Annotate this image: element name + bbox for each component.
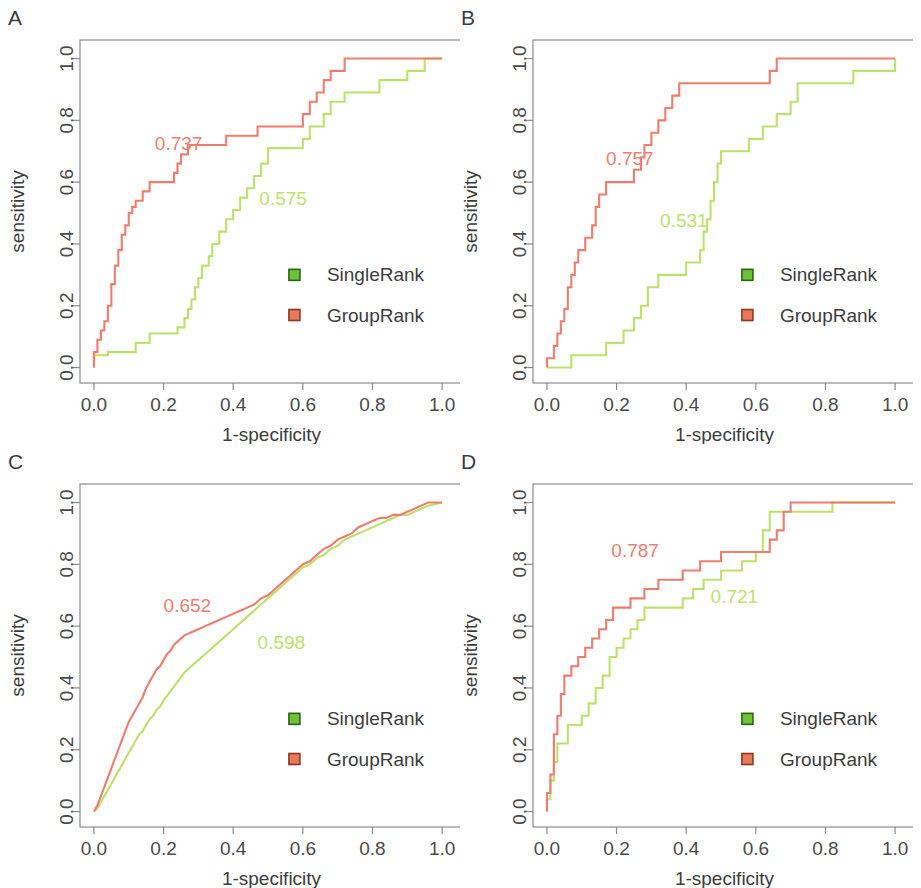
plot-area-a: 0.00.20.40.60.81.00.00.20.40.60.81.01-sp… xyxy=(0,0,460,444)
legend-label-grouprank: GroupRank xyxy=(780,749,878,770)
x-tick-label: 0.0 xyxy=(534,838,560,859)
x-tick-label: 0.4 xyxy=(220,394,247,415)
y-tick-label: 1.0 xyxy=(57,45,78,71)
plot-area-c: 0.00.20.40.60.81.00.00.20.40.60.81.01-sp… xyxy=(0,444,460,888)
y-tick-label: 0.2 xyxy=(57,293,78,319)
y-tick-label: 0.2 xyxy=(510,293,531,319)
y-axis-title: sensitivity xyxy=(460,170,481,253)
y-axis-title: sensitivity xyxy=(7,170,28,253)
y-tick-label: 0.8 xyxy=(510,107,531,133)
auc-label-singlerank: 0.575 xyxy=(259,188,307,209)
roc-figure: A0.00.20.40.60.81.00.00.20.40.60.81.01-s… xyxy=(0,0,921,888)
x-tick-label: 0.2 xyxy=(603,838,629,859)
y-tick-label: 0.4 xyxy=(510,230,531,257)
x-tick-label: 1.0 xyxy=(882,838,908,859)
y-tick-label: 1.0 xyxy=(510,45,531,71)
plot-frame xyxy=(533,484,913,827)
x-tick-label: 0.0 xyxy=(534,394,560,415)
x-tick-label: 0.2 xyxy=(150,394,176,415)
x-tick-label: 0.8 xyxy=(812,394,838,415)
x-tick-label: 1.0 xyxy=(429,838,455,859)
legend-swatch-grouprank xyxy=(742,754,753,765)
auc-label-singlerank: 0.598 xyxy=(258,632,306,653)
y-tick-label: 0.0 xyxy=(57,354,78,380)
legend-label-singlerank: SingleRank xyxy=(327,264,425,285)
y-axis-title: sensitivity xyxy=(7,614,28,697)
y-tick-label: 0.8 xyxy=(57,107,78,133)
y-tick-label: 0.6 xyxy=(510,613,531,639)
y-tick-label: 1.0 xyxy=(57,489,78,515)
plot-area-d: 0.00.20.40.60.81.00.00.20.40.60.81.01-sp… xyxy=(453,444,913,888)
x-tick-label: 0.6 xyxy=(743,838,769,859)
legend-label-grouprank: GroupRank xyxy=(780,305,878,326)
y-tick-label: 0.0 xyxy=(510,354,531,380)
plot-area-b: 0.00.20.40.60.81.00.00.20.40.60.81.01-sp… xyxy=(453,0,913,444)
x-tick-label: 0.6 xyxy=(290,838,316,859)
x-tick-label: 0.8 xyxy=(359,838,385,859)
y-tick-label: 0.0 xyxy=(57,798,78,824)
x-tick-label: 0.4 xyxy=(220,838,247,859)
x-tick-label: 0.2 xyxy=(603,394,629,415)
y-tick-label: 1.0 xyxy=(510,489,531,515)
legend-label-grouprank: GroupRank xyxy=(327,749,425,770)
y-tick-label: 0.4 xyxy=(510,674,531,701)
panel-c: C0.00.20.40.60.81.00.00.20.40.60.81.01-s… xyxy=(0,444,460,888)
legend-label-grouprank: GroupRank xyxy=(327,305,425,326)
y-tick-label: 0.6 xyxy=(57,613,78,639)
x-tick-label: 1.0 xyxy=(429,394,455,415)
plot-frame xyxy=(80,40,460,383)
x-tick-label: 0.8 xyxy=(812,838,838,859)
plot-frame xyxy=(80,484,460,827)
y-tick-label: 0.2 xyxy=(510,737,531,763)
auc-label-grouprank: 0.757 xyxy=(606,148,654,169)
y-tick-label: 0.8 xyxy=(510,551,531,577)
x-tick-label: 0.0 xyxy=(81,394,107,415)
y-tick-label: 0.6 xyxy=(57,169,78,195)
y-axis-title: sensitivity xyxy=(460,614,481,697)
y-tick-label: 0.4 xyxy=(57,674,78,701)
x-tick-label: 0.4 xyxy=(673,838,700,859)
panel-d: D0.00.20.40.60.81.00.00.20.40.60.81.01-s… xyxy=(453,444,913,888)
x-axis-title: 1-specificity xyxy=(675,868,775,888)
x-tick-label: 0.0 xyxy=(81,838,107,859)
x-tick-label: 1.0 xyxy=(882,394,908,415)
auc-label-grouprank: 0.737 xyxy=(155,133,203,154)
plot-frame xyxy=(533,40,913,383)
y-tick-label: 0.4 xyxy=(57,230,78,257)
legend-swatch-singlerank xyxy=(289,713,300,724)
x-tick-label: 0.8 xyxy=(359,394,385,415)
panel-b: B0.00.20.40.60.81.00.00.20.40.60.81.01-s… xyxy=(453,0,913,444)
legend-label-singlerank: SingleRank xyxy=(780,708,878,729)
y-tick-label: 0.8 xyxy=(57,551,78,577)
legend-swatch-singlerank xyxy=(742,713,753,724)
auc-label-grouprank: 0.787 xyxy=(611,540,659,561)
x-axis-title: 1-specificity xyxy=(675,424,775,444)
x-tick-label: 0.4 xyxy=(673,394,700,415)
x-axis-title: 1-specificity xyxy=(222,424,322,444)
panel-a: A0.00.20.40.60.81.00.00.20.40.60.81.01-s… xyxy=(0,0,460,444)
x-axis-title: 1-specificity xyxy=(222,868,322,888)
x-tick-label: 0.2 xyxy=(150,838,176,859)
y-tick-label: 0.0 xyxy=(510,798,531,824)
x-tick-label: 0.6 xyxy=(743,394,769,415)
legend-swatch-singlerank xyxy=(742,269,753,280)
legend-label-singlerank: SingleRank xyxy=(327,708,425,729)
auc-label-grouprank: 0.652 xyxy=(164,595,212,616)
auc-label-singlerank: 0.531 xyxy=(660,210,708,231)
legend-label-singlerank: SingleRank xyxy=(780,264,878,285)
y-tick-label: 0.6 xyxy=(510,169,531,195)
legend-swatch-grouprank xyxy=(289,310,300,321)
auc-label-singlerank: 0.721 xyxy=(711,586,759,607)
legend-swatch-grouprank xyxy=(742,310,753,321)
legend-swatch-singlerank xyxy=(289,269,300,280)
x-tick-label: 0.6 xyxy=(290,394,316,415)
y-tick-label: 0.2 xyxy=(57,737,78,763)
legend-swatch-grouprank xyxy=(289,754,300,765)
